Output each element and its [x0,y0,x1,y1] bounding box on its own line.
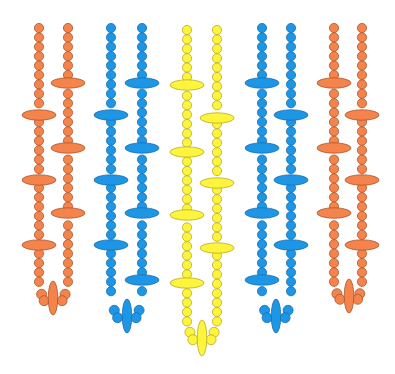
round-bead [34,52,43,61]
round-bead [212,82,221,91]
round-bead [286,164,295,173]
round-bead [182,44,191,53]
round-bead [34,42,43,51]
round-bead [212,72,221,81]
round-bead [257,258,266,267]
round-bead [286,155,295,164]
round-bead [357,211,366,220]
loop-bead [262,313,272,323]
round-bead [286,23,295,32]
round-bead [286,277,295,286]
round-bead [34,23,43,32]
round-bead [329,268,338,277]
round-bead [182,251,191,260]
round-bead [329,258,338,267]
loop-bead [39,296,49,306]
round-bead [212,63,221,72]
round-bead [63,164,72,173]
round-bead [34,221,43,230]
disc-bead [317,143,351,153]
round-bead [137,164,146,173]
pendant-bead [197,320,207,356]
round-bead [257,174,266,183]
round-bead [182,185,191,194]
round-bead [106,258,115,267]
disc-bead [94,240,128,250]
round-bead [329,33,338,42]
round-bead [212,101,221,110]
round-bead [182,195,191,204]
round-bead [106,221,115,230]
loop-bead [188,335,198,345]
round-bead [286,146,295,155]
round-bead [106,42,115,51]
round-bead [182,25,191,34]
round-bead [137,127,146,136]
round-bead [357,277,366,286]
round-bead [257,287,266,296]
round-bead [182,157,191,166]
round-bead [357,52,366,61]
round-bead [329,127,338,136]
loop-bead [335,294,345,304]
round-bead [63,183,72,192]
round-bead [357,61,366,70]
round-bead [106,193,115,202]
round-bead [212,157,221,166]
round-bead [137,89,146,98]
round-bead [329,249,338,258]
round-bead [286,193,295,202]
disc-bead [51,208,85,218]
round-bead [329,230,338,239]
round-bead [182,101,191,110]
round-bead [212,289,221,298]
round-bead [182,110,191,119]
round-bead [137,258,146,267]
round-bead [63,193,72,202]
round-bead [63,23,72,32]
round-bead [63,221,72,230]
round-bead [257,249,266,258]
round-bead [357,202,366,211]
round-bead [286,127,295,136]
round-bead [357,221,366,230]
round-bead [329,277,338,286]
round-bead [182,119,191,128]
round-bead [106,202,115,211]
round-bead [182,298,191,307]
round-bead [63,268,72,277]
round-bead [257,117,266,126]
round-bead [286,136,295,145]
round-bead [34,89,43,98]
round-bead [212,232,221,241]
round-bead [137,221,146,230]
round-bead [63,240,72,249]
disc-bead [317,78,351,88]
round-bead [257,127,266,136]
round-bead [182,91,191,100]
round-bead [137,33,146,42]
loop-bead [206,335,216,345]
round-bead [357,42,366,51]
round-bead [137,61,146,70]
round-bead [329,155,338,164]
disc-bead [345,175,379,185]
round-bead [212,129,221,138]
round-bead [137,52,146,61]
round-bead [106,89,115,98]
round-bead [63,230,72,239]
disc-bead [245,208,279,218]
round-bead [137,174,146,183]
round-bead [286,230,295,239]
disc-bead [170,210,204,220]
disc-bead [22,110,56,120]
round-bead [63,108,72,117]
round-bead [329,240,338,249]
round-bead [286,287,295,296]
round-bead [329,193,338,202]
round-bead [182,166,191,175]
round-bead [357,155,366,164]
round-bead [329,108,338,117]
round-bead [34,33,43,42]
round-bead [34,211,43,220]
